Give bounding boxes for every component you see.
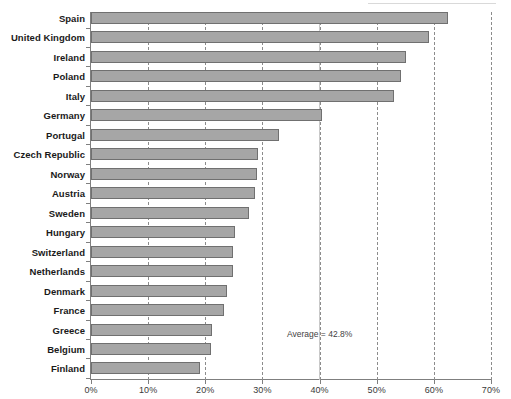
category-label-france: France	[54, 305, 85, 316]
bar-row	[91, 285, 227, 297]
bar-row	[91, 129, 279, 141]
bar-belgium	[91, 343, 211, 355]
y-tick	[86, 105, 90, 106]
y-tick	[86, 261, 90, 262]
bar-poland	[91, 70, 401, 82]
y-tick	[86, 47, 90, 48]
bar-hungary	[91, 226, 235, 238]
bar-netherlands	[91, 265, 233, 277]
category-label-germany: Germany	[43, 110, 85, 121]
category-labels: SpainUnited KingdomIrelandPolandItalyGer…	[0, 0, 85, 399]
bar-row	[91, 246, 233, 258]
bar-denmark	[91, 285, 227, 297]
bar-finland	[91, 362, 200, 374]
category-label-denmark: Denmark	[44, 286, 85, 297]
x-tick-40pct	[320, 380, 321, 384]
bar-ireland	[91, 51, 406, 63]
x-tick-50pct	[377, 380, 378, 384]
y-tick	[86, 339, 90, 340]
bar-row	[91, 226, 235, 238]
y-tick	[86, 203, 90, 204]
average-label: Average = 42.8%	[287, 329, 352, 339]
x-tick-label: 60%	[425, 385, 443, 395]
top-rule-decoration	[368, 3, 496, 4]
bar-row	[91, 324, 212, 336]
bar-row	[91, 168, 257, 180]
x-tick-label: 10%	[139, 385, 157, 395]
category-label-ireland: Ireland	[54, 52, 86, 63]
category-label-portugal: Portugal	[46, 130, 85, 141]
x-tick-label: 20%	[196, 385, 214, 395]
category-label-czech-republic: Czech Republic	[14, 149, 85, 160]
x-tick-20pct	[205, 380, 206, 384]
y-tick	[86, 378, 90, 379]
category-label-norway: Norway	[50, 169, 85, 180]
category-label-netherlands: Netherlands	[30, 266, 85, 277]
bar-row	[91, 70, 401, 82]
y-tick	[86, 86, 90, 87]
bar-chart: 0%10%20%30%40%50%60%70% SpainUnited King…	[0, 0, 511, 399]
y-tick	[86, 164, 90, 165]
bar-row	[91, 304, 224, 316]
bar-row	[91, 207, 249, 219]
x-tick-label: 50%	[368, 385, 386, 395]
bar-row	[91, 12, 448, 24]
bar-sweden	[91, 207, 249, 219]
bar-switzerland	[91, 246, 233, 258]
bar-row	[91, 362, 200, 374]
x-tick-label: 70%	[482, 385, 500, 395]
x-tick-70pct	[491, 380, 492, 384]
y-tick	[86, 28, 90, 29]
x-tick-label: 0%	[84, 385, 97, 395]
x-tick-30pct	[262, 380, 263, 384]
bar-germany	[91, 109, 322, 121]
bar-row	[91, 51, 406, 63]
category-label-greece: Greece	[52, 325, 85, 336]
bars-container	[91, 12, 491, 380]
bar-row	[91, 343, 211, 355]
bar-row	[91, 265, 233, 277]
bar-norway	[91, 168, 257, 180]
y-tick	[86, 300, 90, 301]
bar-greece	[91, 324, 212, 336]
x-tick-label: 40%	[310, 385, 328, 395]
x-tick-60pct	[434, 380, 435, 384]
category-label-hungary: Hungary	[46, 227, 85, 238]
bar-spain	[91, 12, 448, 24]
bar-portugal	[91, 129, 279, 141]
category-label-austria: Austria	[52, 188, 85, 199]
category-label-poland: Poland	[53, 71, 85, 82]
category-label-switzerland: Switzerland	[32, 247, 85, 258]
category-label-belgium: Belgium	[47, 344, 85, 355]
category-label-italy: Italy	[66, 91, 85, 102]
y-tick	[86, 222, 90, 223]
category-label-sweden: Sweden	[49, 208, 85, 219]
gridline-70pct	[491, 12, 492, 380]
y-tick	[86, 281, 90, 282]
x-tick-0pct	[91, 380, 92, 384]
bar-italy	[91, 90, 394, 102]
bar-row	[91, 148, 258, 160]
bar-france	[91, 304, 224, 316]
category-label-united-kingdom: United Kingdom	[11, 32, 85, 43]
category-label-finland: Finland	[51, 363, 85, 374]
y-tick	[86, 242, 90, 243]
y-tick	[86, 358, 90, 359]
y-tick	[86, 125, 90, 126]
x-tick-10pct	[148, 380, 149, 384]
bar-austria	[91, 187, 255, 199]
bar-row	[91, 109, 322, 121]
bar-united-kingdom	[91, 31, 429, 43]
category-label-spain: Spain	[59, 13, 85, 24]
y-tick	[86, 66, 90, 67]
y-tick	[86, 183, 90, 184]
x-tick-label: 30%	[253, 385, 271, 395]
y-tick	[86, 320, 90, 321]
y-tick	[86, 144, 90, 145]
bar-row	[91, 31, 429, 43]
bar-row	[91, 90, 394, 102]
bar-czech-republic	[91, 148, 258, 160]
bar-row	[91, 187, 255, 199]
